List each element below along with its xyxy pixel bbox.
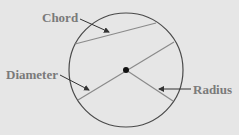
center-point [123, 67, 129, 73]
chord-arrow [80, 19, 109, 32]
circle-diagram: Chord Diameter Radius [0, 0, 239, 135]
diameter-arrow [60, 75, 89, 90]
diameter-label: Diameter [6, 67, 58, 82]
radius-line [126, 70, 173, 101]
radius-label: Radius [193, 82, 232, 97]
chord-line [75, 23, 156, 44]
chord-label: Chord [42, 10, 79, 25]
